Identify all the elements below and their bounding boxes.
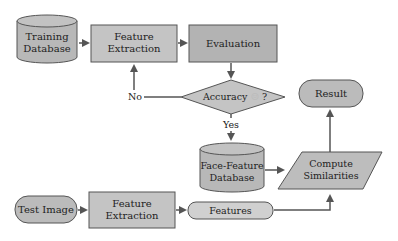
feature-extraction-bottom-label: Feature Extraction: [89, 195, 175, 225]
features-label: Features: [188, 202, 273, 219]
fe-bottom-line1: Feature: [112, 198, 151, 210]
training-database-label: Training Database: [17, 28, 77, 58]
no-label: No: [126, 91, 144, 103]
test-image-label: Test Image: [15, 196, 77, 223]
fe-top-line1: Feature: [114, 31, 153, 43]
smiley-icon: ☺: [250, 91, 259, 103]
result-label: Result: [299, 80, 363, 107]
evaluation-label: Evaluation: [189, 25, 277, 62]
feature-extraction-top-label: Feature Extraction: [91, 28, 177, 58]
accuracy-label: Accuracy ☺ ?: [190, 90, 280, 104]
cs-line2: Similarities: [303, 170, 358, 182]
cs-line1: Compute: [309, 158, 353, 170]
face-feature-database-label: Face-Feature Database: [200, 157, 264, 187]
accuracy-text: Accuracy: [203, 91, 248, 103]
ffdb-line2: Database: [209, 172, 254, 184]
compute-similarities-label: Compute Similarities: [295, 155, 367, 185]
fe-bottom-line2: Extraction: [106, 210, 159, 222]
ffdb-line1: Face-Feature: [200, 160, 263, 172]
training-db-line2: Database: [23, 43, 70, 55]
edge-features-to-compute: [274, 196, 330, 210]
fe-top-line2: Extraction: [108, 43, 161, 55]
training-db-line1: Training: [25, 31, 68, 43]
accuracy-suffix: ?: [262, 91, 267, 103]
yes-label: Yes: [220, 119, 242, 131]
